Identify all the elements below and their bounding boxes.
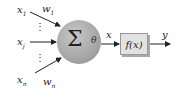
activation-label: f(x) bbox=[125, 39, 142, 50]
intermediate-x-label: x bbox=[106, 30, 112, 40]
threshold-theta: θ bbox=[91, 35, 96, 45]
weight-wn: wn bbox=[43, 77, 55, 89]
sigma-symbol: Σ bbox=[67, 28, 83, 50]
ellipsis-upper: ⋮ bbox=[35, 22, 45, 32]
output-y-label: y bbox=[162, 30, 168, 40]
weight-w1: w1 bbox=[42, 4, 54, 16]
ellipsis-lower: ⋮ bbox=[35, 53, 45, 63]
input-xn: xn bbox=[17, 75, 27, 87]
activation-function-box: f(x) bbox=[120, 33, 148, 55]
input-xj: xj bbox=[17, 37, 25, 49]
input-x1: x1 bbox=[17, 5, 26, 17]
